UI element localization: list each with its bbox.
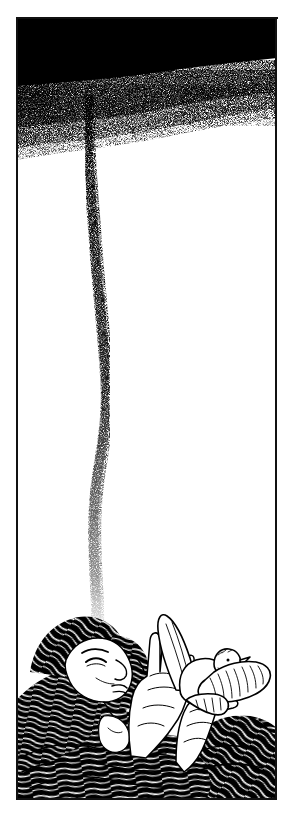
artwork-svg [0, 0, 295, 821]
illustration-canvas: Woman Releasing a Dove Beneath a Dark Sk… [0, 0, 295, 821]
